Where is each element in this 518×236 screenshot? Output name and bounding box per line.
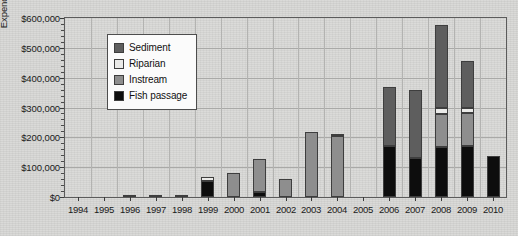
legend-item: Sediment — [114, 40, 187, 56]
chart-figure: Expenditures $0$100,000$200,000$300,000$… — [0, 0, 518, 236]
x-axis-tick-mark — [130, 197, 131, 201]
x-axis-tick-mark — [260, 197, 261, 201]
x-axis-tick-mark — [156, 197, 157, 201]
legend-swatch-icon — [114, 75, 124, 85]
x-axis-tick-mark — [363, 197, 364, 201]
bar-segment-sediment — [409, 90, 422, 159]
x-axis-tick-label: 2007 — [405, 204, 425, 215]
gridline-vertical — [454, 18, 455, 197]
bar-2001 — [253, 159, 266, 197]
x-axis-tick-label: 1994 — [68, 204, 88, 215]
plot-area: SedimentRiparianInstreamFish passage — [64, 17, 507, 198]
x-axis-tick-label: 1997 — [146, 204, 166, 215]
x-axis-tick-label: 1995 — [94, 204, 114, 215]
bar-segment-fish-passage — [435, 147, 448, 197]
gridline-vertical — [298, 18, 299, 197]
legend-label: Instream — [129, 75, 167, 85]
bar-2002 — [279, 179, 292, 197]
x-axis-tick-label: 2008 — [431, 204, 451, 215]
gridline-vertical — [480, 18, 481, 197]
x-axis-tick-mark — [441, 197, 442, 201]
bar-segment-riparian — [331, 134, 344, 136]
bar-segment-instream — [305, 132, 318, 197]
legend-label: Fish passage — [129, 91, 187, 101]
x-axis-tick-mark — [415, 197, 416, 201]
bar-segment-instream — [253, 159, 266, 192]
x-axis-tick-mark — [182, 197, 183, 201]
gridline-vertical — [247, 18, 248, 197]
gridline-vertical — [350, 18, 351, 197]
gridline-vertical — [221, 18, 222, 197]
x-axis-tick-label: 1999 — [198, 204, 218, 215]
bar-segment-riparian — [435, 108, 448, 115]
legend-swatch-icon — [114, 43, 124, 53]
x-axis-tick-mark — [467, 197, 468, 201]
legend-item: Fish passage — [114, 88, 187, 104]
legend-item: Instream — [114, 72, 187, 88]
x-axis-tick-mark — [337, 197, 338, 201]
x-axis-tick-label: 1998 — [172, 204, 192, 215]
y-axis-tick-label: $500,000 — [2, 42, 60, 53]
bar-segment-fish-passage — [487, 156, 500, 197]
bar-segment-instream — [227, 173, 240, 197]
gridline-vertical — [376, 18, 377, 197]
bar-segment-instream — [279, 179, 292, 197]
gridline-vertical — [273, 18, 274, 197]
x-axis-tick-label: 1996 — [120, 204, 140, 215]
bar-2000 — [227, 173, 240, 197]
x-axis-tick-mark — [234, 197, 235, 201]
bar-segment-instream — [331, 136, 344, 197]
bar-2010 — [487, 156, 500, 197]
bar-segment-fish-passage — [201, 181, 214, 197]
bar-segment-fish-passage — [461, 146, 474, 197]
x-axis-tick-label: 2004 — [327, 204, 347, 215]
gridline-vertical — [324, 18, 325, 197]
legend-label: Sediment — [129, 43, 170, 53]
x-axis-tick-mark — [104, 197, 105, 201]
x-axis-tick-mark — [286, 197, 287, 201]
bar-segment-fish-passage — [383, 146, 396, 197]
x-axis-tick-label: 2001 — [250, 204, 270, 215]
bar-2009 — [461, 61, 474, 197]
y-axis-tick-label: $200,000 — [2, 132, 60, 143]
bar-2006 — [383, 87, 396, 197]
x-axis-tick-label: 2009 — [457, 204, 477, 215]
bar-segment-riparian — [461, 108, 474, 114]
chart-legend: SedimentRiparianInstreamFish passage — [107, 34, 197, 110]
x-axis-tick-mark — [311, 197, 312, 201]
x-axis-tick-label: 2005 — [353, 204, 373, 215]
bar-2008 — [435, 25, 448, 197]
bar-2004 — [331, 134, 344, 197]
bar-segment-instream — [435, 114, 448, 147]
bar-segment-sediment — [461, 61, 474, 107]
legend-swatch-icon — [114, 91, 124, 101]
x-axis-tick-label: 2006 — [379, 204, 399, 215]
x-axis-tick-mark — [208, 197, 209, 201]
gridline-vertical — [428, 18, 429, 197]
bar-2003 — [305, 132, 318, 197]
bar-segment-fish-passage — [409, 158, 422, 197]
y-axis-tick-label: $600,000 — [2, 13, 60, 24]
legend-item: Riparian — [114, 56, 187, 72]
y-axis-tick-label: $400,000 — [2, 72, 60, 83]
y-axis-tick-label: $300,000 — [2, 102, 60, 113]
bar-1999 — [201, 177, 214, 197]
bar-2007 — [409, 90, 422, 197]
x-axis-tick-mark — [493, 197, 494, 201]
y-axis-tick-label: $0 — [2, 192, 60, 203]
gridline-vertical — [91, 18, 92, 197]
legend-swatch-icon — [114, 59, 124, 69]
x-axis-tick-label: 2003 — [301, 204, 321, 215]
y-axis-tick-label: $100,000 — [2, 162, 60, 173]
legend-label: Riparian — [129, 59, 165, 69]
x-axis-tick-mark — [389, 197, 390, 201]
bar-segment-sediment — [383, 87, 396, 147]
x-axis-tick-label: 2002 — [276, 204, 296, 215]
x-axis-tick-label: 2000 — [224, 204, 244, 215]
bar-segment-instream — [461, 113, 474, 145]
gridline-vertical — [402, 18, 403, 197]
bar-segment-sediment — [435, 25, 448, 108]
x-axis-tick-mark — [78, 197, 79, 201]
bar-segment-riparian — [201, 177, 214, 181]
x-axis-tick-label: 2010 — [483, 204, 503, 215]
